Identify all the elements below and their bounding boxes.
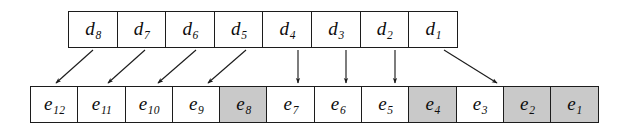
cell-label: e9	[189, 94, 204, 113]
cell-subscript: 3	[338, 29, 344, 41]
cell-label: e10	[139, 94, 160, 113]
array-cell-e7: e7	[266, 86, 315, 123]
cell-label: e7	[284, 94, 299, 113]
array-cell-d8: d8	[68, 11, 118, 48]
cell-label: d5	[231, 19, 247, 38]
cell-label: e3	[473, 94, 488, 113]
arrow-d1-to-e3	[444, 50, 497, 83]
cell-label: e8	[236, 94, 251, 113]
cell-label: e2	[520, 94, 535, 113]
array-cell-e12: e12	[30, 86, 79, 123]
top-array-row: d8d7d6d5d4d3d2d1	[68, 11, 458, 48]
cell-subscript: 6	[193, 29, 199, 41]
array-cell-d1: d1	[408, 11, 458, 48]
cell-subscript: 10	[148, 104, 160, 116]
arrow-d8-to-e12	[56, 50, 93, 83]
bottom-array-row: e12e11e10e9e8e7e6e5e4e3e2e1	[30, 86, 599, 123]
cell-label: d6	[182, 19, 198, 38]
cell-subscript: 4	[290, 29, 296, 41]
cell-label: e1	[567, 94, 582, 113]
array-cell-e11: e11	[77, 86, 126, 123]
arrow-d7-to-e11	[108, 50, 145, 83]
cell-label: d1	[425, 19, 441, 38]
cell-subscript: 5	[241, 29, 247, 41]
cell-subscript: 2	[387, 29, 393, 41]
array-cell-e1: e1	[550, 86, 599, 123]
array-cell-e4: e4	[408, 86, 457, 123]
cell-subscript: 8	[245, 104, 251, 116]
cell-subscript: 1	[436, 29, 442, 41]
cell-label: e12	[44, 94, 65, 113]
cell-subscript: 4	[435, 104, 441, 116]
array-cell-d5: d5	[214, 11, 264, 48]
cell-subscript: 7	[144, 29, 150, 41]
array-cell-d3: d3	[311, 11, 361, 48]
cell-label: e6	[331, 94, 346, 113]
cell-label: d8	[85, 19, 101, 38]
cell-subscript: 8	[95, 29, 101, 41]
array-cell-d6: d6	[165, 11, 215, 48]
cell-label: e5	[378, 94, 393, 113]
array-cell-e5: e5	[361, 86, 410, 123]
cell-label: e11	[92, 94, 112, 113]
array-cell-e2: e2	[503, 86, 552, 123]
cell-label: d7	[134, 19, 150, 38]
array-cell-d2: d2	[360, 11, 410, 48]
cell-subscript: 5	[387, 104, 393, 116]
cell-subscript: 2	[529, 104, 535, 116]
array-cell-e3: e3	[456, 86, 505, 123]
array-cell-e9: e9	[172, 86, 221, 123]
cell-label: e4	[425, 94, 440, 113]
array-cell-e8: e8	[219, 86, 268, 123]
cell-subscript: 6	[340, 104, 346, 116]
arrow-d5-to-e9	[208, 50, 246, 83]
cell-subscript: 12	[53, 104, 65, 116]
cell-subscript: 11	[101, 104, 112, 116]
cell-subscript: 3	[482, 104, 488, 116]
array-cell-e10: e10	[125, 86, 174, 123]
cell-label: d3	[328, 19, 344, 38]
array-cell-e6: e6	[314, 86, 363, 123]
cell-subscript: 7	[293, 104, 299, 116]
cell-label: d4	[280, 19, 296, 38]
arrow-d6-to-e10	[158, 50, 196, 83]
array-mapping-diagram: d8d7d6d5d4d3d2d1 e12e11e10e9e8e7e6e5e4e3…	[0, 0, 642, 128]
cell-label: d2	[377, 19, 393, 38]
array-cell-d7: d7	[117, 11, 167, 48]
array-cell-d4: d4	[262, 11, 312, 48]
cell-subscript: 1	[576, 104, 582, 116]
cell-subscript: 9	[198, 104, 204, 116]
